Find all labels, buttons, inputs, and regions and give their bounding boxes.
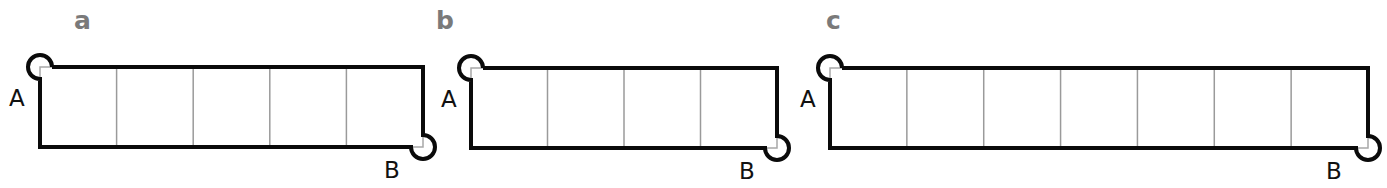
- strip-outline: [28, 55, 435, 159]
- point-label-a-end: B: [384, 157, 400, 183]
- panel-label-c: c: [826, 6, 841, 35]
- panel-b: b A B: [436, 6, 789, 184]
- point-label-b-end: B: [739, 158, 755, 184]
- panel-a: a A B: [9, 6, 435, 183]
- point-label-c-start: A: [800, 86, 816, 112]
- panel-c: c A B: [800, 6, 1380, 184]
- cell-dividers: [907, 68, 1291, 148]
- point-label-b-start: A: [441, 86, 457, 112]
- panel-label-a: a: [74, 6, 91, 35]
- panel-label-b: b: [436, 6, 454, 35]
- strip-diagram: a A B b A B c A B: [0, 0, 1387, 188]
- cell-dividers: [117, 67, 347, 147]
- cell-dividers: [548, 68, 701, 148]
- point-label-a-start: A: [9, 85, 25, 111]
- point-label-c-end: B: [1326, 158, 1342, 184]
- strip-outline: [818, 56, 1380, 160]
